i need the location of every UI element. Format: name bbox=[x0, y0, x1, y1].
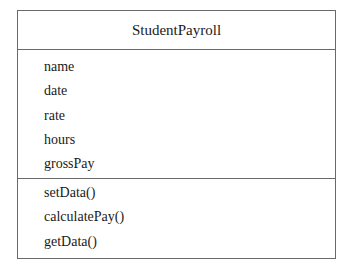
attribute-item: grossPay bbox=[18, 152, 335, 176]
class-name: StudentPayroll bbox=[132, 22, 221, 39]
attribute-item: hours bbox=[18, 128, 335, 152]
class-name-compartment: StudentPayroll bbox=[18, 11, 335, 50]
attribute-item: date bbox=[18, 79, 335, 103]
attribute-item: rate bbox=[18, 104, 335, 128]
method-item: setData() bbox=[18, 181, 335, 205]
methods-compartment: setData() calculatePay() getData() bbox=[18, 179, 335, 254]
method-item: calculatePay() bbox=[18, 205, 335, 229]
attributes-compartment: name date rate hours grossPay bbox=[18, 50, 335, 179]
uml-class-box: StudentPayroll name date rate hours gros… bbox=[17, 10, 336, 259]
method-item: getData() bbox=[18, 230, 335, 254]
attribute-item: name bbox=[18, 55, 335, 79]
